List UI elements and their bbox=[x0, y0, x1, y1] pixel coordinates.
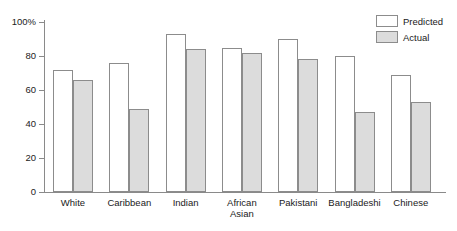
bar-predicted-caribbean bbox=[109, 63, 129, 192]
bar-actual-pakistani bbox=[298, 59, 318, 192]
bar-actual-african-asian bbox=[242, 53, 262, 192]
bar-predicted-pakistani bbox=[278, 39, 298, 192]
bar-predicted-white bbox=[53, 70, 73, 192]
legend-item-actual: Actual bbox=[376, 29, 456, 45]
y-axis-tick-label: 40 bbox=[0, 119, 36, 129]
x-axis-label: Chinese bbox=[371, 197, 451, 208]
y-axis-tick bbox=[39, 158, 45, 159]
y-axis-tick-label: 80 bbox=[0, 51, 36, 61]
y-axis-tick-label: 20 bbox=[0, 153, 36, 163]
y-axis-tick bbox=[39, 56, 45, 57]
y-axis-tick bbox=[39, 22, 45, 23]
y-axis-tick bbox=[39, 90, 45, 91]
y-axis-tick-label: 100% bbox=[0, 17, 36, 27]
bar-predicted-chinese bbox=[391, 75, 411, 192]
y-axis-tick-label: 0 bbox=[0, 187, 36, 197]
legend-swatch-predicted bbox=[376, 15, 398, 27]
y-axis-tick bbox=[39, 192, 45, 193]
y-axis-tick bbox=[39, 124, 45, 125]
bar-actual-bangladeshi bbox=[355, 112, 375, 192]
bar-actual-white bbox=[73, 80, 93, 192]
bar-actual-caribbean bbox=[129, 109, 149, 192]
bar-predicted-indian bbox=[166, 34, 186, 192]
y-axis-tick-label: 60 bbox=[0, 85, 36, 95]
y-axis-line bbox=[44, 20, 45, 193]
bar-actual-chinese bbox=[411, 102, 431, 192]
bar-actual-indian bbox=[186, 49, 206, 192]
legend-item-predicted: Predicted bbox=[376, 13, 456, 29]
x-axis-line bbox=[44, 192, 446, 193]
legend-swatch-actual bbox=[376, 31, 398, 43]
legend-label-actual: Actual bbox=[403, 32, 429, 43]
bar-chart: 020406080100% WhiteCaribbeanIndianAfrica… bbox=[0, 0, 457, 231]
legend-label-predicted: Predicted bbox=[403, 16, 443, 27]
legend: Predicted Actual bbox=[376, 13, 456, 45]
bar-predicted-african-asian bbox=[222, 48, 242, 193]
bar-predicted-bangladeshi bbox=[335, 56, 355, 192]
